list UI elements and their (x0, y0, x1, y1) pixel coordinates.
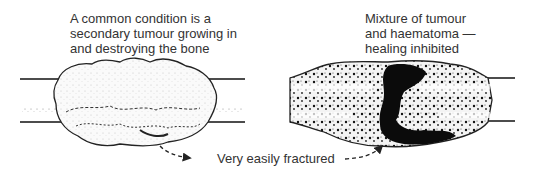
right-caption-line: and haematoma — (365, 26, 476, 41)
fracture-label: Very easily fractured (217, 151, 335, 166)
left-caption: A common condition is a secondary tumour… (70, 11, 237, 56)
left-caption-line: secondary tumour growing in (70, 26, 237, 41)
left-bone-tumour (20, 58, 245, 146)
right-caption-line: Mixture of tumour (365, 11, 476, 26)
right-caption: Mixture of tumour and haematoma — healin… (365, 11, 476, 56)
left-caption-line: and destroying the bone (70, 41, 237, 56)
left-caption-line: A common condition is a (70, 11, 237, 26)
arrow-left (160, 146, 190, 158)
right-bone-fracture (290, 61, 515, 147)
right-caption-line: healing inhibited (365, 41, 476, 56)
arrow-right (345, 146, 382, 159)
